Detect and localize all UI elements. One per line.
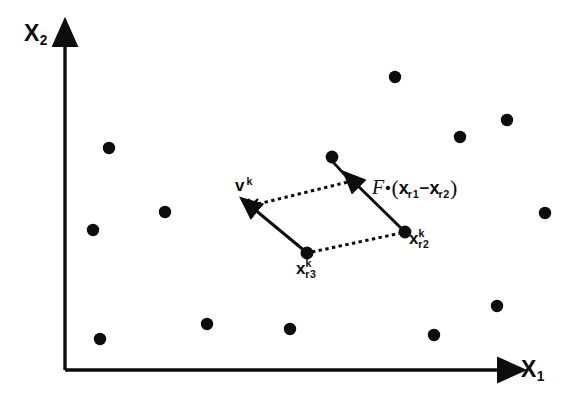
point-vk-asterisk-marker [246,199,260,209]
population-point [284,323,296,335]
vk-label-superscript: k [246,175,252,187]
x-axis-label: X1 [521,358,545,384]
formula-minus-operator: − [419,179,429,198]
figure-canvas: X2 X1 vk xkr2 xkr3 F•(xr1−xr2) [0,0,585,400]
population-point [454,131,466,143]
population-point [428,329,440,341]
vk-label: vk [235,176,252,194]
formula-multiply-operator: • [385,179,390,196]
population-point [539,207,551,219]
dotted-side-top [258,181,352,204]
y-axis-label: X2 [24,22,48,48]
formula-scale-factor: F [372,176,384,198]
population-point [491,300,503,312]
formula-close-paren: ) [450,175,457,200]
x-axis-label-subscript: 1 [537,369,545,384]
formula-term2-subscript: r2 [438,188,450,200]
population-points-group [87,71,551,345]
x-axis-label-base: X [521,356,536,382]
y-axis-label-subscript: 2 [40,33,48,48]
diagram-svg [0,0,585,400]
xr3-label: xkr3 [296,258,316,279]
point-xr1 [326,151,339,164]
axes-group [65,44,500,370]
population-point [159,206,171,218]
mutant-vector-arrow [254,209,306,252]
population-point [501,114,513,126]
dotted-side-bottom [312,233,401,252]
vk-label-base: v [235,176,244,195]
y-axis-label-base: X [24,20,39,46]
formula-open-paren: ( [391,175,398,200]
xr2-label-subscript: r2 [418,238,429,250]
xr2-label: xkr2 [409,228,429,249]
population-point [201,318,213,330]
population-point [87,224,99,236]
population-point [94,333,106,345]
xr3-label-subscript: r3 [305,268,316,280]
population-point [103,142,115,154]
formula-term1-subscript: r1 [408,188,420,200]
vector-points-group [246,151,411,260]
difference-vector-formula-label: F•(xr1−xr2) [372,177,457,200]
population-point [389,71,401,83]
